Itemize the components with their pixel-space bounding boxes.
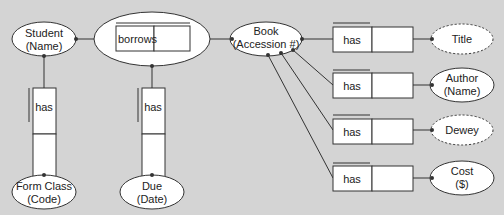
entity-author-refmode: (Name) — [444, 85, 481, 97]
entity-dewey[interactable]: Dewey — [431, 115, 493, 145]
fact-book-has-author[interactable]: has — [333, 70, 413, 98]
entity-author-name: Author — [446, 72, 479, 84]
entity-form-class[interactable]: Form Class (Code) — [12, 175, 76, 209]
entity-form-class-refmode: (Code) — [27, 193, 61, 205]
fact-book-has-title-label: has — [343, 34, 361, 46]
entity-title-name: Title — [452, 33, 472, 45]
entity-book-name: Book — [253, 25, 279, 37]
fact-book-has-title[interactable]: has — [333, 23, 413, 52]
fact-borrows-has-due[interactable]: has — [138, 88, 165, 182]
entity-cost-name: Cost — [451, 165, 474, 177]
entity-due-refmode: (Date) — [137, 193, 168, 205]
entity-student[interactable]: Student (Name) — [12, 22, 76, 56]
entity-due[interactable]: Due (Date) — [120, 175, 184, 209]
fact-book-has-author-label: has — [343, 80, 361, 92]
mandatory-role-dots — [42, 37, 434, 180]
fact-book-has-cost[interactable]: has — [333, 163, 413, 191]
entity-form-class-name: Form Class — [16, 180, 73, 192]
fact-book-has-dewey-label: has — [343, 126, 361, 138]
entity-book[interactable]: Book (Accession #) — [230, 22, 302, 56]
fact-student-has-form-label: has — [35, 101, 53, 113]
orm-diagram: Student (Name) borrows Book (Accession #… — [0, 0, 504, 215]
entity-cost-refmode: ($) — [455, 178, 468, 190]
fact-book-has-dewey[interactable]: has — [333, 115, 413, 144]
entity-cost[interactable]: Cost ($) — [430, 161, 494, 195]
entity-due-name: Due — [142, 180, 162, 192]
entity-dewey-name: Dewey — [445, 124, 479, 136]
fact-book-has-cost-label: has — [343, 173, 361, 185]
entity-student-name: Student — [25, 27, 63, 39]
fact-borrows-label: borrows — [118, 33, 158, 45]
entity-title[interactable]: Title — [431, 24, 493, 54]
entity-author[interactable]: Author (Name) — [430, 68, 494, 102]
entity-book-refmode: (Accession #) — [233, 38, 300, 50]
entity-student-refmode: (Name) — [26, 40, 63, 52]
fact-borrows-has-due-label: has — [144, 101, 162, 113]
fact-student-has-form-class[interactable]: has — [29, 88, 56, 182]
fact-borrows-objectified[interactable]: borrows — [94, 12, 210, 66]
